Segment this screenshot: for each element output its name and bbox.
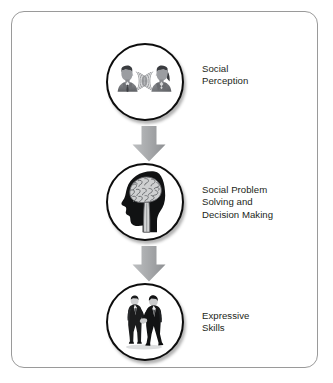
down-arrow-icon bbox=[128, 246, 170, 282]
stage-circle-social-perception bbox=[106, 43, 184, 121]
stage-label-line: Solving and bbox=[202, 196, 273, 208]
stage-label-line: Expressive bbox=[202, 310, 249, 322]
stage-label-line: Perception bbox=[202, 75, 248, 87]
diagram-frame: Social Perception bbox=[11, 11, 318, 368]
stage-label-line: Decision Making bbox=[202, 209, 273, 221]
stage-circle-social-problem-solving bbox=[106, 163, 184, 241]
stage-label-line: Social Problem bbox=[202, 184, 273, 196]
head-with-brain-icon bbox=[108, 165, 182, 239]
stage-label-expressive-skills: Expressive Skills bbox=[202, 310, 249, 335]
stage-label-line: Social bbox=[202, 63, 248, 75]
stage-label-line: Skills bbox=[202, 322, 249, 334]
down-arrow-icon bbox=[128, 126, 170, 162]
stage-circle-expressive-skills bbox=[106, 283, 184, 361]
stage-label-social-perception: Social Perception bbox=[202, 63, 248, 88]
two-people-handshake-icon bbox=[108, 285, 182, 359]
two-people-talking-sound-waves-icon bbox=[108, 45, 182, 119]
stage-label-social-problem-solving: Social Problem Solving and Decision Maki… bbox=[202, 184, 273, 221]
